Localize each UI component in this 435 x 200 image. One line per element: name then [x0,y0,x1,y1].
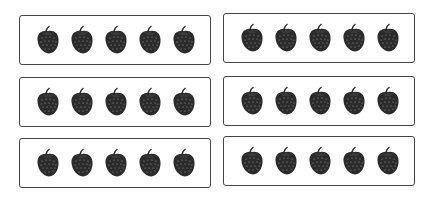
strawberry-icon [69,148,95,178]
strawberry-group-box [223,76,415,126]
strawberry-icon [341,23,367,53]
strawberry-group-box [19,138,211,188]
strawberry-icon [273,146,299,176]
strawberry-icon [375,23,401,53]
strawberry-icon [375,146,401,176]
strawberry-icon [171,148,197,178]
strawberry-icon [239,23,265,53]
strawberry-icon [137,87,163,117]
strawberry-icon [171,87,197,117]
strawberry-group-box [19,77,211,127]
strawberry-icon [341,86,367,116]
strawberry-icon [273,23,299,53]
strawberry-icon [103,87,129,117]
strawberry-icon [239,86,265,116]
strawberry-icon [137,148,163,178]
strawberry-icon [375,86,401,116]
strawberry-icon [239,146,265,176]
strawberry-icon [35,25,61,55]
strawberry-icon [103,148,129,178]
strawberry-icon [69,87,95,117]
strawberry-icon [103,25,129,55]
strawberry-group-box [223,136,415,186]
strawberry-icon [307,146,333,176]
strawberry-icon [35,148,61,178]
strawberry-icon [307,86,333,116]
strawberry-group-box [223,13,415,63]
strawberry-icon [273,86,299,116]
strawberry-icon [35,87,61,117]
strawberry-icon [69,25,95,55]
strawberry-group-box [19,15,211,65]
strawberry-icon [137,25,163,55]
strawberry-icon [171,25,197,55]
strawberry-icon [341,146,367,176]
strawberry-icon [307,23,333,53]
